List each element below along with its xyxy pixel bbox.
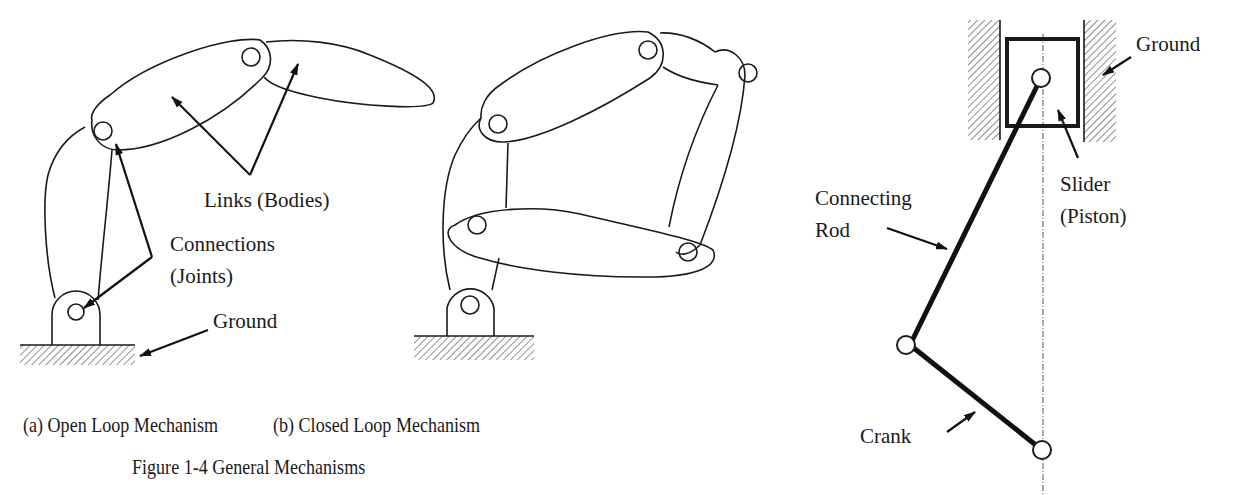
ground-label-c: Ground	[1136, 32, 1200, 56]
right-link-b	[660, 33, 745, 254]
crank	[910, 345, 1042, 450]
caption-open-loop: (a) Open Loop Mechanism	[23, 413, 218, 437]
ground-hatch-a	[20, 345, 135, 365]
slider-label: Slider	[1060, 172, 1110, 196]
link-2-a	[92, 39, 271, 150]
caption-closed-loop: (b) Closed Loop Mechanism	[273, 413, 480, 437]
joints-label: (Joints)	[170, 264, 233, 288]
slider-crank-mechanism	[897, 20, 1116, 495]
lower-link-b	[448, 209, 714, 277]
figure-caption: Figure 1-4 General Mechanisms	[132, 455, 365, 479]
connections-label: Connections	[170, 232, 275, 256]
base-joint-a	[52, 291, 100, 345]
link-1-a	[45, 127, 85, 298]
rod-label: Rod	[815, 218, 850, 242]
piston-label: (Piston)	[1060, 204, 1127, 228]
ground-wall-left	[968, 20, 1000, 140]
ground-hatch-b	[414, 336, 534, 360]
ground-label-a: Ground	[213, 309, 277, 333]
ground-wall-right	[1084, 20, 1116, 142]
closed-loop-mechanism	[414, 32, 757, 360]
crank-label: Crank	[860, 424, 911, 448]
links-label: Links (Bodies)	[204, 188, 329, 212]
link-3-a	[264, 41, 434, 107]
connecting-rod-label: Connecting	[815, 186, 912, 210]
